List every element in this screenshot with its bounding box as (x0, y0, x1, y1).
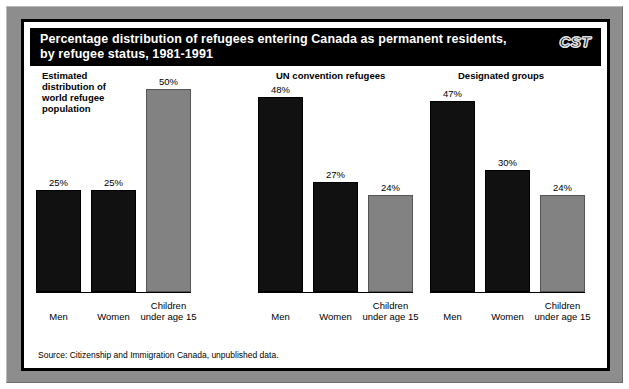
bar-value-label: 47% (422, 88, 483, 99)
bar-slot: 25% (36, 89, 81, 292)
bar-value-label: 30% (477, 157, 538, 168)
group-title-line: UN convention refugees (276, 70, 385, 81)
bar-value-label: 24% (360, 182, 421, 193)
group-title-line: Designated groups (458, 70, 544, 81)
category-label-line: under age 15 (134, 311, 203, 322)
bar-slot: 24% (368, 89, 413, 292)
group-title-designated-groups: Designated groups (458, 70, 544, 81)
bar-men (258, 97, 303, 292)
axis-baseline (36, 292, 191, 293)
chart-group-estimated-world-refugee-population: Estimateddistribution ofworld refugeepop… (36, 70, 191, 328)
bar-slot: 50% (146, 89, 191, 292)
bar-slot: 47% (430, 89, 475, 292)
bar-value-label: 27% (305, 169, 366, 180)
category-label-line: under age 15 (356, 311, 425, 322)
bar-women (91, 190, 136, 292)
bars-container: 48%27%24% (258, 89, 413, 292)
bar-value-label: 48% (250, 84, 311, 95)
figure-outer-frame: Percentage distribution of refugees ente… (6, 6, 623, 383)
bar-women (485, 170, 530, 292)
source-note: Source: Citizenship and Immigration Cana… (38, 350, 279, 360)
category-label: Childrenunder age 15 (356, 300, 425, 322)
bar-women (313, 182, 358, 292)
axis-baseline (430, 292, 585, 293)
bar-men (430, 101, 475, 292)
bar-slot: 48% (258, 89, 303, 292)
category-label-line: under age 15 (528, 311, 597, 322)
bar-value-label: 50% (138, 76, 199, 87)
bar-slot: 24% (540, 89, 585, 292)
bars-container: 25%25%50% (36, 89, 191, 292)
bar-value-label: 24% (532, 182, 593, 193)
bar-men (36, 190, 81, 292)
chart-group-designated-groups: Designated groups47%30%24%MenWomenChildr… (430, 70, 585, 328)
group-title-un-convention-refugees: UN convention refugees (276, 70, 385, 81)
axis-baseline (258, 292, 413, 293)
bars-container: 47%30%24% (430, 89, 585, 292)
bar-slot: 30% (485, 89, 530, 292)
bar-slot: 27% (313, 89, 358, 292)
figure-title-line-1: Percentage distribution of refugees ente… (40, 32, 591, 47)
category-label-line: Children (134, 300, 203, 311)
bar-slot: 25% (91, 89, 136, 292)
category-label-line: Children (356, 300, 425, 311)
bar-value-label: 25% (83, 177, 144, 188)
bar-children (146, 89, 191, 292)
bar-children (540, 195, 585, 292)
cst-logo: CST (560, 33, 592, 50)
figure-title-line-2: by refugee status, 1981-1991 (40, 47, 591, 62)
category-label: Childrenunder age 15 (134, 300, 203, 322)
chart-plot-area: Estimateddistribution ofworld refugeepop… (30, 70, 601, 328)
category-label-line: Children (528, 300, 597, 311)
chart-group-un-convention-refugees: UN convention refugees48%27%24%MenWomenC… (258, 70, 413, 328)
category-label: Childrenunder age 15 (528, 300, 597, 322)
figure-title-bar: Percentage distribution of refugees ente… (30, 28, 601, 66)
figure-border: Percentage distribution of refugees ente… (21, 19, 610, 371)
bar-children (368, 195, 413, 292)
figure-plate: Percentage distribution of refugees ente… (24, 22, 607, 368)
bar-value-label: 25% (28, 177, 89, 188)
group-title-line: Estimated (42, 70, 106, 81)
